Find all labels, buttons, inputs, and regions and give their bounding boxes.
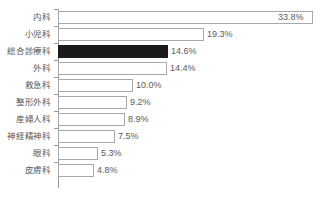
category-label: 神経精神科 — [0, 128, 54, 145]
chart-row: 皮膚科 4.8% — [0, 162, 324, 179]
chart-row: 外科 14.4% — [0, 60, 324, 77]
bar-value-label: 10.0% — [136, 78, 162, 93]
bar-value-label: 19.3% — [207, 27, 233, 42]
bar-chart: 内科 33.8% 小児科 19.3% 総合診療科 14.6% 外科 14.4% … — [0, 0, 324, 204]
axis-tick — [54, 128, 58, 129]
category-label: 皮膚科 — [0, 162, 54, 179]
axis-tick — [54, 43, 58, 44]
axis-tick — [54, 111, 58, 112]
chart-row: 神経精神科 7.5% — [0, 128, 324, 145]
category-label: 眼科 — [0, 145, 54, 162]
category-label: 整形外科 — [0, 94, 54, 111]
axis-tick — [54, 145, 58, 146]
chart-row: 小児科 19.3% — [0, 26, 324, 43]
axis-tick — [54, 94, 58, 95]
bar-value-label: 33.8% — [278, 10, 304, 25]
bar-value-label: 7.5% — [118, 129, 139, 144]
axis-tick — [54, 26, 58, 27]
category-label: 救急科 — [0, 77, 54, 94]
bar — [58, 147, 98, 160]
bar-value-label: 14.4% — [170, 61, 196, 76]
chart-row: 産婦人科 8.9% — [0, 111, 324, 128]
bar — [58, 28, 204, 41]
bar — [58, 164, 94, 177]
chart-row: 内科 33.8% — [0, 9, 324, 26]
category-label: 産婦人科 — [0, 111, 54, 128]
bar-value-label: 5.3% — [101, 146, 122, 161]
plot-area: 内科 33.8% 小児科 19.3% 総合診療科 14.6% 外科 14.4% … — [0, 9, 324, 195]
bar — [58, 11, 313, 24]
bar — [58, 130, 115, 143]
chart-row: 整形外科 9.2% — [0, 94, 324, 111]
chart-row: 救急科 10.0% — [0, 77, 324, 94]
bar-value-label: 4.8% — [97, 163, 118, 178]
bar — [58, 62, 167, 75]
bar — [58, 79, 133, 92]
chart-row: 総合診療科 14.6% — [0, 43, 324, 60]
bar-value-label: 8.9% — [128, 112, 149, 127]
bar-value-label: 9.2% — [130, 95, 151, 110]
bar — [58, 96, 127, 109]
axis-tick — [54, 77, 58, 78]
bar-highlighted — [58, 45, 168, 58]
category-label: 内科 — [0, 9, 54, 26]
axis-tick — [54, 9, 58, 10]
chart-row: 眼科 5.3% — [0, 145, 324, 162]
bar — [58, 113, 125, 126]
bar-value-label: 14.6% — [171, 44, 197, 59]
category-label: 小児科 — [0, 26, 54, 43]
axis-tick — [54, 60, 58, 61]
category-label: 外科 — [0, 60, 54, 77]
category-label: 総合診療科 — [0, 43, 54, 60]
axis-tick — [54, 162, 58, 163]
